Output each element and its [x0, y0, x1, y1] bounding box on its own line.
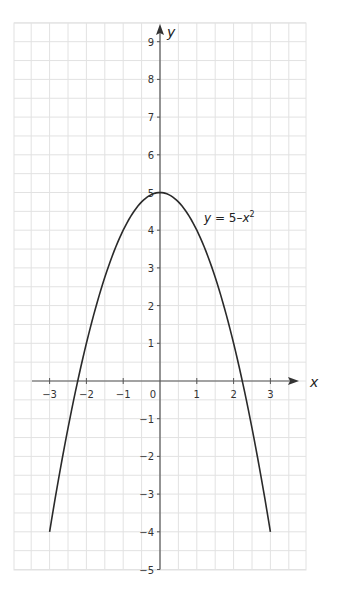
- y-tick-label: 3: [148, 263, 154, 274]
- axes: [32, 24, 299, 570]
- x-tick-label: 0: [150, 389, 156, 400]
- y-tick-label: 8: [148, 74, 154, 85]
- y-tick-label: 2: [148, 301, 154, 312]
- y-tick-label: 9: [148, 37, 154, 48]
- x-axis-label: x: [309, 374, 319, 390]
- x-tick-label: −2: [79, 389, 94, 400]
- y-tick-label: −5: [139, 565, 154, 576]
- y-tick-label: −2: [139, 451, 154, 462]
- y-tick-label: −4: [139, 527, 154, 538]
- x-tick-label: −3: [42, 389, 57, 400]
- y-tick-label: −1: [139, 414, 154, 425]
- y-tick-label: 6: [148, 150, 154, 161]
- y-tick-label: 4: [148, 225, 154, 236]
- x-tick-label: −1: [116, 389, 131, 400]
- equation-label: y = 5–x2: [203, 210, 255, 225]
- y-axis-label: y: [166, 24, 176, 40]
- parabola-chart: −3−2−10123987654321−1−2−3−4−5 x y y = 5–…: [0, 0, 337, 602]
- y-tick-label: 1: [148, 338, 154, 349]
- x-tick-label: 3: [267, 389, 273, 400]
- x-tick-label: 1: [194, 389, 200, 400]
- y-tick-label: 7: [148, 112, 154, 123]
- y-tick-label: −3: [139, 489, 154, 500]
- x-tick-label: 2: [230, 389, 236, 400]
